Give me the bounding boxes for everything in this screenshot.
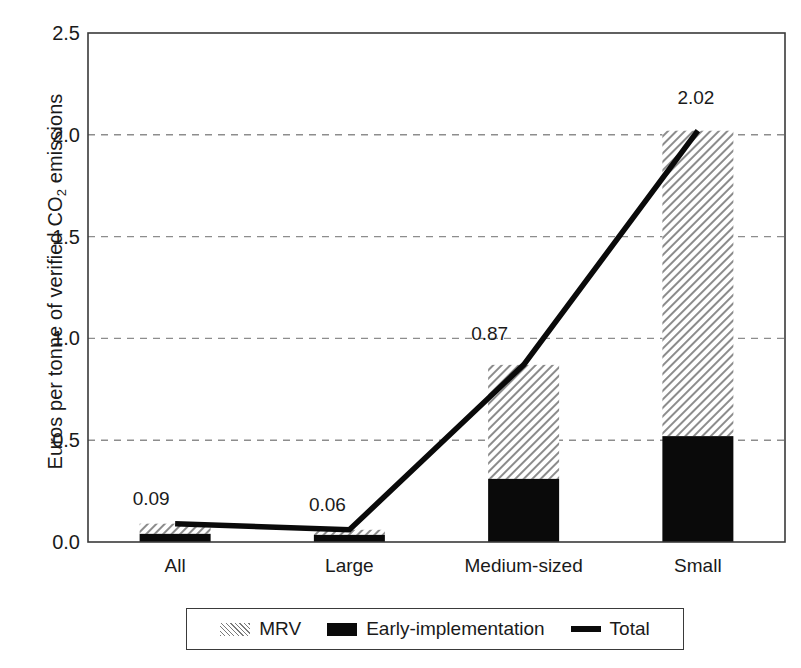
legend-label-mrv: MRV [259, 618, 301, 640]
line-swatch-icon [571, 626, 601, 632]
legend-label-early-implementation: Early-implementation [366, 618, 544, 640]
bar-segment-early-implementation [140, 534, 211, 542]
x-axis-tick-label: Small [674, 555, 722, 577]
chart-container: Euros per tonne of verified CO2 emission… [0, 0, 801, 668]
hatch-swatch-icon [220, 623, 250, 636]
bar-segment-early-implementation [488, 479, 559, 542]
solid-swatch-icon [327, 623, 357, 636]
data-label: 0.09 [133, 488, 170, 510]
bar-segment-early-implementation [314, 535, 385, 542]
bar-segment-mrv [488, 365, 559, 479]
total-line-series [175, 131, 698, 530]
bar-segment-mrv [662, 131, 733, 436]
chart-legend: MRV Early-implementation Total [186, 608, 684, 650]
legend-item-early-implementation: Early-implementation [327, 618, 544, 640]
x-axis-tick-label: All [165, 555, 186, 577]
x-axis-tick-label: Large [325, 555, 374, 577]
legend-label-total: Total [610, 618, 650, 640]
bar-group [140, 131, 734, 542]
data-label: 0.06 [309, 494, 346, 516]
data-label: 0.87 [471, 323, 508, 345]
legend-item-mrv: MRV [220, 618, 301, 640]
data-label: 2.02 [677, 87, 714, 109]
legend-item-total: Total [571, 618, 650, 640]
x-axis-tick-label: Medium-sized [464, 555, 582, 577]
bar-segment-early-implementation [662, 436, 733, 542]
